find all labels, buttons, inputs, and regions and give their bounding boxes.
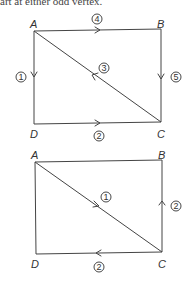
order-number: 5: [173, 72, 178, 82]
order-number: 1: [103, 192, 108, 202]
edge-d-c: [36, 252, 162, 254]
edge-a-d: [35, 162, 36, 254]
diagram-canvas: A B D C 4 1 3 5 2 A B D C 1 2 2: [0, 0, 192, 284]
diagram-2: A B D C 1 2 2: [30, 149, 181, 272]
order-number: 2: [96, 131, 101, 141]
edge-a-c: [35, 162, 162, 252]
order-number: 2: [96, 262, 101, 272]
vertex-label-a: A: [29, 18, 37, 30]
order-number: 4: [94, 14, 99, 24]
vertex-label-b: B: [158, 149, 165, 161]
vertex-label-d: D: [30, 128, 38, 140]
order-number: 1: [18, 72, 23, 82]
edge-a-c: [34, 31, 161, 122]
vertex-label-c: C: [157, 128, 165, 140]
vertex-label-a: A: [30, 149, 38, 161]
vertex-label-d: D: [31, 258, 39, 270]
diagram-1: A B D C 4 1 3 5 2: [16, 14, 181, 141]
edge-a-b: [34, 29, 161, 31]
order-number: 3: [101, 63, 106, 73]
order-number: 2: [173, 201, 178, 211]
edge-d-c: [34, 122, 161, 124]
edge-a-b: [35, 160, 162, 162]
vertex-label-c: C: [158, 258, 166, 270]
vertex-label-b: B: [157, 18, 164, 30]
